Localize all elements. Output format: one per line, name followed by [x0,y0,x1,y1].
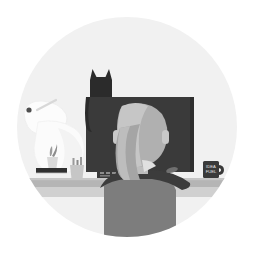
book-top [36,168,67,173]
plant-pot [47,157,58,168]
pen-cup-body [70,165,84,178]
monitor-bezel-right [190,97,194,172]
book-bottom [36,173,67,178]
key-3 [112,172,116,174]
key-row-2a [100,175,110,177]
key-2 [106,172,110,174]
illustration-canvas: Person working at desk with cat on monit… [0,0,254,259]
lamp-hinge-icon [26,107,31,112]
key-1 [100,172,104,174]
person-ear-right [162,130,169,144]
book-stack [36,168,67,178]
workspace-illustration: IDEA FUEL [0,0,254,259]
book-divider [36,173,67,174]
mug-text-line-2: FUEL [206,169,217,174]
